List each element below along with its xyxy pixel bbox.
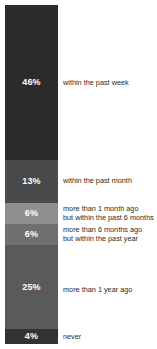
category-label-within-the-past-week: within the past week [63,78,157,87]
category-label-never: never [63,332,157,341]
bar-segment-more-than-1-month-ago[interactable]: 6% [5,203,58,224]
stacked-bar-chart: 46% 13% 6% 6% 25% 4% within the past wee… [0,0,157,349]
bar-segment-never[interactable]: 4% [5,329,58,344]
bar-segment-within-the-past-month[interactable]: 13% [5,160,58,203]
category-label-more-than-1-month-ago: more than 1 month ago but within the pas… [63,204,157,222]
category-label-within-the-past-month: within the past month [63,176,157,185]
bar-segment-more-than-6-months-ago[interactable]: 6% [5,224,58,245]
segment-value-label: 6% [25,209,38,218]
segment-value-label: 46% [22,78,41,87]
segment-value-label: 4% [25,332,38,341]
bar-segment-more-than-1-year-ago[interactable]: 25% [5,245,58,329]
bar-segment-within-the-past-week[interactable]: 46% [5,5,58,160]
stacked-bar-column: 46% 13% 6% 6% 25% 4% [5,5,58,344]
segment-value-label: 6% [25,230,38,239]
category-label-more-than-6-months-ago: more than 6 months ago but within the pa… [63,225,157,243]
segment-value-label: 25% [22,283,41,292]
category-label-more-than-1-year-ago: more than 1 year ago [63,285,157,294]
segment-value-label: 13% [22,177,41,186]
